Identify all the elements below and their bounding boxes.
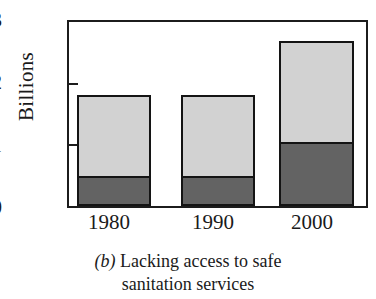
bar-1980[interactable] [77, 95, 151, 206]
y-tick-label-1: 1 [0, 135, 2, 156]
chart-figure: Billions 3 2 1 0 1980 1990 2000 (b) Lack… [0, 0, 376, 299]
y-tick-mark-2 [69, 83, 78, 85]
plot-area [69, 22, 366, 206]
y-tick-label-2: 2 [0, 72, 2, 93]
y-tick-label-0: 0 [0, 197, 2, 218]
x-tick-label-2000: 2000 [272, 212, 352, 233]
y-tick-label-3: 3 [0, 10, 2, 31]
caption-line-2: sanitation services [0, 273, 376, 296]
x-tick-label-1980: 1980 [69, 212, 149, 233]
caption-text-1: Lacking access to safe [116, 251, 282, 271]
figure-caption: (b) Lacking access to safe sanitation se… [0, 250, 376, 296]
plot-frame [67, 20, 368, 208]
bar-1990[interactable] [181, 95, 255, 206]
caption-line-1: (b) Lacking access to safe [0, 250, 376, 273]
bar-2000-lower-segment [281, 142, 352, 204]
bar-1980-lower-segment [79, 176, 149, 204]
panel-letter: (b) [95, 251, 116, 271]
bar-1990-lower-segment [183, 176, 253, 204]
y-axis-title: Billions [14, 17, 39, 157]
bar-2000[interactable] [279, 41, 354, 206]
x-tick-label-1990: 1990 [173, 212, 253, 233]
